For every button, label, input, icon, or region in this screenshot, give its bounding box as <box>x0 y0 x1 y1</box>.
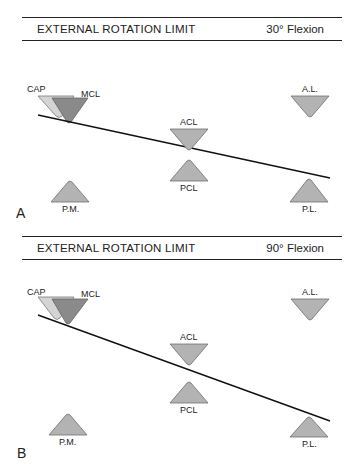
al-triangle <box>291 96 329 117</box>
acl-label: ACL <box>180 117 198 127</box>
al-label: A.L. <box>302 84 318 94</box>
pm-label: P.M. <box>59 437 76 447</box>
pcl-triangle <box>170 382 208 403</box>
pm-label: P.M. <box>62 204 79 214</box>
pm-triangle <box>49 414 87 435</box>
cap-label: CAP <box>27 84 46 94</box>
pcl-label: PCL <box>180 405 198 415</box>
al-triangle <box>291 299 329 320</box>
al-label: A.L. <box>302 287 318 297</box>
pm-triangle <box>51 181 89 202</box>
acl-label: ACL <box>180 332 198 342</box>
panel-letter: B <box>17 445 26 461</box>
pl-triangle <box>290 179 328 202</box>
ligament-diagram-a: CAP MCL ACL PCL A.L. P.L. P.M. <box>0 0 360 225</box>
panel-letter: A <box>16 205 25 221</box>
pcl-label: PCL <box>180 183 198 193</box>
panel-a: EXTERNAL ROTATION LIMIT 30° Flexion CAP … <box>0 0 360 225</box>
panel-b: EXTERNAL ROTATION LIMIT 90° Flexion CAP … <box>0 225 360 464</box>
mcl-label: MCL <box>81 289 100 299</box>
pl-label: P.L. <box>302 204 317 214</box>
ligament-diagram-b: CAP MCL ACL PCL A.L. P.L. P.M. <box>0 225 360 464</box>
mcl-label: MCL <box>81 89 100 99</box>
pl-label: P.L. <box>302 439 317 449</box>
pl-triangle <box>290 417 328 437</box>
pcl-triangle <box>170 160 208 181</box>
acl-triangle <box>170 129 208 150</box>
acl-triangle <box>170 344 208 365</box>
cap-label: CAP <box>27 287 46 297</box>
